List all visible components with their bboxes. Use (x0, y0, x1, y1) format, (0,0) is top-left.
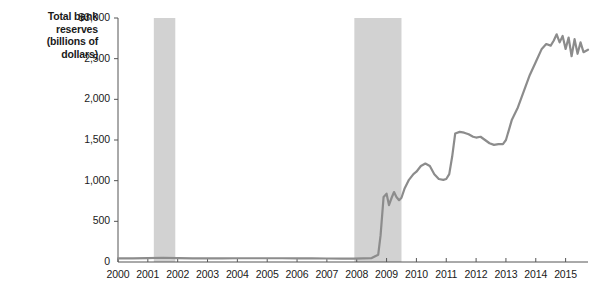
data-series-lines (118, 34, 588, 258)
plot-area (0, 0, 608, 293)
recession-shading-bands (154, 18, 402, 262)
recession-band (354, 18, 401, 262)
series-line (118, 34, 588, 258)
recession-band (154, 18, 175, 262)
chart-axes (114, 18, 588, 262)
bank-reserves-chart-figure: Total bank reserves (billions of dollars… (0, 0, 608, 293)
